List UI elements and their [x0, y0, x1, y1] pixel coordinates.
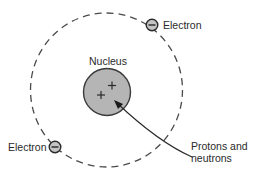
protons-label-line1: Protons and [191, 140, 248, 152]
electron-label-top: Electron [163, 19, 202, 31]
atom-diagram: Nucleus Electron Electron Protons and ne… [0, 0, 255, 179]
pointer-arrow-line [117, 103, 192, 157]
nucleus-label: Nucleus [89, 55, 127, 67]
protons-label-line2: neutrons [191, 152, 232, 164]
electron-label-bottom: Electron [8, 141, 47, 153]
